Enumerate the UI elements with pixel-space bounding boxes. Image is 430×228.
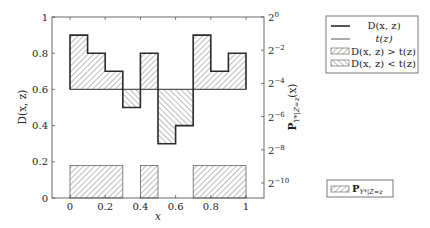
x-axis-label: x <box>155 210 161 222</box>
fill-above-threshold <box>211 71 229 89</box>
right-y-tick-label: 20 <box>268 11 279 23</box>
y-tick-label: 0.2 <box>32 156 48 167</box>
legend-probability: PY*|Z=z <box>327 180 393 197</box>
legend-probability-swatch <box>331 186 349 192</box>
x-tick-label: 0.2 <box>97 201 113 212</box>
right-y-tick-label: 2−8 <box>268 144 285 156</box>
fill-above-threshold <box>70 35 88 89</box>
fill-above-threshold <box>105 71 123 89</box>
chart: 00.20.40.60.81 00.20.40.60.81 202−22−42−… <box>0 0 430 228</box>
right-y-tick-label: 2−10 <box>268 177 289 189</box>
right-y-axis-ticks: 202−22−42−62−82−10 <box>261 11 289 189</box>
y-tick-label: 0.8 <box>32 48 48 59</box>
probability-bar <box>70 165 123 198</box>
right-y-tick-label: 2−4 <box>268 77 285 89</box>
right-y-tick-label: 2−6 <box>268 111 285 123</box>
y-axis-ticks: 00.20.40.60.81 <box>32 12 55 204</box>
probability-bar <box>140 165 158 198</box>
fill-above-threshold <box>228 53 246 89</box>
fill-above-threshold <box>88 53 106 89</box>
fill-below-threshold <box>123 89 141 107</box>
fill-above-threshold <box>140 53 158 89</box>
right-y-tick-label: 2−2 <box>268 44 285 56</box>
probability-bar <box>193 165 246 198</box>
y-tick-label: 0.6 <box>32 84 48 95</box>
x-tick-label: 0.4 <box>132 201 148 212</box>
right-y-axis-label: PY*|Z=z(x) <box>286 84 301 131</box>
probability-bars <box>70 165 246 198</box>
x-tick-label: 0 <box>67 201 73 212</box>
fill-above-threshold <box>193 35 211 89</box>
legend-above-swatch <box>331 48 349 54</box>
x-tick-label: 1 <box>243 201 249 212</box>
y-tick-label: 0 <box>42 193 48 204</box>
legend-t-line-label: t(z) <box>375 33 392 44</box>
x-tick-label: 0.8 <box>203 201 219 212</box>
fill-below-threshold <box>176 89 194 125</box>
y-axis-label: D(x, z) <box>16 90 28 125</box>
legend-main: D(x, z) t(z) D(x, z) > t(z) D(x, z) < t(… <box>326 16 418 73</box>
legend-below-label: D(x, z) < t(z) <box>351 58 416 69</box>
legend-above-label: D(x, z) > t(z) <box>351 46 416 57</box>
y-tick-label: 0.4 <box>32 120 48 131</box>
y-tick-label: 1 <box>42 12 48 23</box>
legend-below-swatch <box>331 60 349 66</box>
fill-below-threshold <box>158 89 176 143</box>
x-tick-label: 0.6 <box>168 201 184 212</box>
legend-d-line-label: D(x, z) <box>367 20 400 31</box>
